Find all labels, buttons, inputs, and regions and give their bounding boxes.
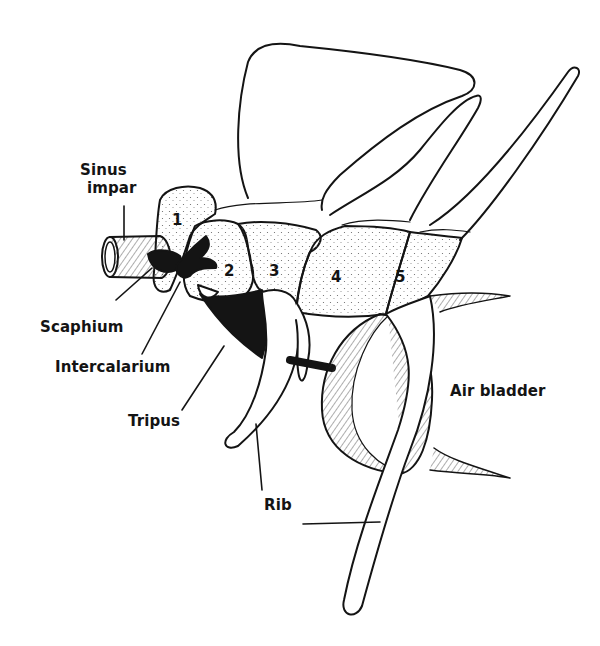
label-sinus-impar-line1: Sinus [80,162,127,179]
leader-tripus [182,346,224,410]
label-scaphium: Scaphium [40,319,123,336]
vertebra-number-4: 4 [331,270,341,285]
label-rib: Rib [264,497,292,514]
neural-spine-4 [330,96,481,220]
label-tripus: Tripus [128,413,180,430]
neural-spine-5 [430,68,579,240]
vertebra-number-5: 5 [395,270,405,285]
leader-intercalarium [142,282,180,354]
vertebra-number-3: 3 [269,264,279,279]
tripus [200,290,268,358]
leader-rib-left [256,424,262,490]
vertebra-number-2: 2 [224,264,234,279]
label-sinus-impar-line2: impar [87,180,137,197]
vertebra-number-1: 1 [172,213,182,228]
label-air-bladder: Air bladder [450,383,546,400]
label-intercalarium: Intercalarium [55,359,170,376]
